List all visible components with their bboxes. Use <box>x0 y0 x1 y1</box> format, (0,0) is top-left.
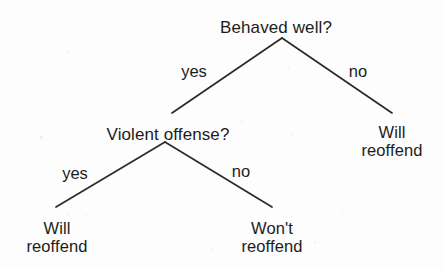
leaf-bottom-right-line2: reoffend <box>241 238 302 256</box>
node-leaf-will-reoffend-bottom-left: Will reoffend <box>26 220 87 255</box>
leaf-bottom-right-line1: Won't <box>241 220 302 238</box>
leaf-right-line1: Will <box>361 124 422 142</box>
edge-root-to-leaf-right <box>282 38 392 113</box>
node-root-behaved-well: Behaved well? <box>220 18 332 38</box>
edge-label-root-yes: yes <box>181 62 207 80</box>
edge-label-violent-no: no <box>232 162 250 180</box>
edge-label-violent-yes: yes <box>62 164 88 182</box>
node-leaf-will-reoffend-right: Will reoffend <box>361 124 422 159</box>
node-leaf-wont-reoffend: Won't reoffend <box>241 220 302 255</box>
leaf-bottom-left-line1: Will <box>26 220 87 238</box>
decision-tree-diagram: Behaved well? Violent offense? Will reof… <box>0 0 443 270</box>
node-violent-offense: Violent offense? <box>107 125 230 145</box>
edge-label-root-no: no <box>349 62 367 80</box>
leaf-bottom-left-line2: reoffend <box>26 238 87 256</box>
edge-violent-to-leaf-bottom-right <box>165 142 272 207</box>
leaf-right-line2: reoffend <box>361 142 422 160</box>
